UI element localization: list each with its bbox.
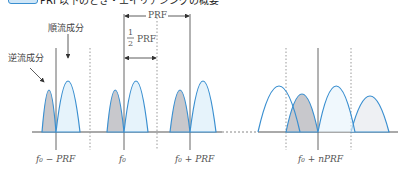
forward-flow-label: 順流成分	[48, 24, 84, 33]
half-prf-unit: PRF	[137, 35, 156, 44]
axis-label-f0-minus-prf: f₀ − PRF	[36, 155, 75, 164]
spectrum-f0-minus-prf	[42, 81, 80, 132]
doppler-aliasing-diagram: PRF以下のとき・エイリアシングの概要	[0, 0, 406, 172]
reverse-flow-label: 逆流成分	[8, 54, 44, 63]
axis-label-f0-plus-prf: f₀ + PRF	[175, 155, 214, 164]
prf-label: PRF	[148, 11, 167, 20]
half-prf-denominator: 2	[128, 40, 133, 48]
axis-label-f0: f₀	[119, 155, 126, 164]
axis-label-f0-plus-nprf: f₀ + nPRF	[298, 155, 343, 164]
spectrum-f0	[107, 81, 148, 132]
spectrum-f0-plus-prf	[170, 81, 216, 132]
spectrum-f0-plus-nprf	[258, 86, 389, 132]
half-prf-numerator: 1	[128, 29, 133, 37]
